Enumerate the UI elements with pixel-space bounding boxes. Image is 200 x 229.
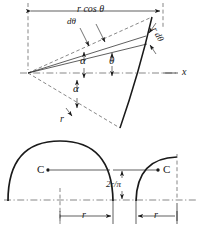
figure-drawing [0,0,200,229]
r-radius-leader [66,108,72,116]
right-centroid-dot [156,168,159,171]
label-x-axis: x [182,67,186,77]
label-alpha-lower: α [73,83,79,94]
bottom-diagram-group [4,141,196,224]
top-diagram-group [20,3,178,128]
label-centroid-left: C [37,164,44,175]
label-radius-right: r [154,210,158,220]
label-d-theta: dθ [67,17,76,26]
sector-arc [120,17,152,128]
d-theta-leader-left [80,28,89,46]
label-radius-left: r [82,210,86,220]
figure-container: r cos θ dθ r dθ α θ α r x C C 2r/π r r [0,0,200,229]
label-alpha-upper: α [80,55,86,66]
label-r-cos-theta: r cos θ [77,4,104,14]
label-theta: θ [109,55,114,66]
right-quarter-arc [136,157,177,201]
left-semicircle-arc [8,141,113,201]
d-theta-leader-right [96,24,105,42]
sector-upper-bound-dashed [28,17,152,73]
left-centroid-dot [46,168,49,171]
label-centroid-right: C [163,164,170,175]
element-ray-lower [28,44,147,73]
label-centroid-offset: 2r/π [106,180,121,189]
r-d-theta-arrow-lower [150,45,156,54]
label-r-radius: r [60,114,64,124]
